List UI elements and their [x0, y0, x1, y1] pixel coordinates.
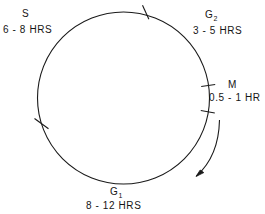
cell-cycle-circle [38, 12, 210, 184]
phase-label-m-name: M [228, 79, 237, 90]
phase-label-s-name: S [22, 8, 29, 19]
phase-label-g2-duration: 3 - 5 HRS [193, 25, 242, 36]
phase-label-s-duration: 6 - 8 HRS [3, 24, 52, 35]
tick-mark-g1-s-boundary [35, 119, 49, 129]
direction-arrow-head [196, 170, 204, 177]
phase-label-g1-name: G1 [110, 186, 122, 199]
phase-label-g2-subscript: 2 [213, 15, 217, 22]
phase-label-m-duration: 0.5 - 1 HR [209, 92, 261, 103]
phase-label-g1-duration: 8 - 12 HRS [86, 200, 141, 211]
phase-label-g1-subscript: 1 [118, 192, 122, 199]
cell-cycle-diagram: S 6 - 8 HRS G2 3 - 5 HRS M 0.5 - 1 HR G1… [0, 0, 265, 214]
phase-label-g2-name: G2 [205, 9, 217, 22]
direction-arrow-arc [197, 120, 220, 176]
tick-mark-s-g2-boundary [143, 5, 149, 19]
